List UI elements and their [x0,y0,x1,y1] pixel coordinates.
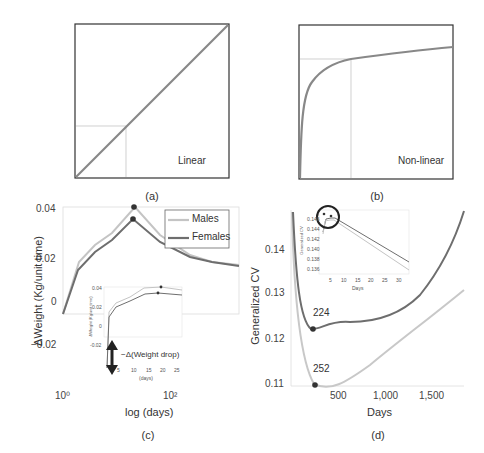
c-inset-xtick-3: 20 [160,367,166,373]
panel-c-label: (c) [136,429,160,441]
panel-a-label: (a) [140,190,164,202]
d-inset-xtick-3: 20 [368,277,374,283]
c-xtick-0: 10⁰ [55,390,70,401]
d-inset-ylabel: Generalized CV [299,216,304,266]
legend-males: Males [192,213,219,224]
d-inset-ytick-5: 0.136 [307,266,320,272]
d-inset-ytick-3: 0.140 [307,246,320,252]
c-inset-xlabel: (days) [139,375,153,381]
c-inset-ylabel: ΔWeight (Kg/unit time) [88,287,93,347]
d-xlabel: Days [367,406,392,418]
d-inset-ytick-0: 0.146 [307,216,320,222]
legend-females: Females [192,231,230,242]
panel-d-plot [291,206,464,388]
c-inset-ytick-1: 0.02 [92,304,102,310]
c-ylabel: ΔWeight (Kg/unit time) [32,211,44,371]
d-inset-ytick-2: 0.142 [307,236,320,242]
d-xtick-2: 1,500 [419,390,444,401]
c-inset-ytick-2: 0 [99,323,102,329]
min-label-224: 224 [313,307,330,318]
c-inset-xtick-2: 15 [146,367,152,373]
d-ytick-3: 0.11 [265,378,284,389]
c-ytick-2: 0 [51,296,57,307]
d-xtick-0: 500 [330,390,347,401]
d-inset-xtick-1: 10 [341,277,347,283]
panel-a-annotation: Linear [178,155,206,166]
c-inset-ytick-0: 0.04 [92,285,102,291]
c-xlabel: log (days) [125,406,173,418]
d-ytick-0: 0.14 [265,244,284,255]
d-inset-xtick-0: 5 [329,277,332,283]
c-xtick-1: 10² [163,390,177,401]
d-inset-xtick-5: 30 [396,277,402,283]
d-ytick-2: 0.12 [265,333,284,344]
d-inset-ytick-1: 0.144 [307,226,320,232]
panel-b-label: (b) [365,190,389,202]
figure-graphics [0,0,484,453]
c-inset-xtick-1: 10 [131,367,137,373]
d-ytick-1: 0.13 [265,287,284,298]
panel-b-annotation: Non-linear [398,155,444,166]
d-inset-xlabel: Days [352,285,363,291]
c-inset-xtick-0: 5 [117,367,120,373]
d-xtick-1: 1,000 [373,390,398,401]
panel-d-label: (d) [366,429,390,441]
d-inset-xtick-2: 15 [355,277,361,283]
c-inset-xtick-4: 25 [174,367,180,373]
weight-drop-annotation: −Δ(Weight drop) [121,350,179,359]
d-inset-xtick-4: 25 [382,277,388,283]
d-inset-ytick-4: 0.138 [307,256,320,262]
d-ylabel: Generalized CV [249,251,261,361]
min-label-252: 252 [313,363,330,374]
